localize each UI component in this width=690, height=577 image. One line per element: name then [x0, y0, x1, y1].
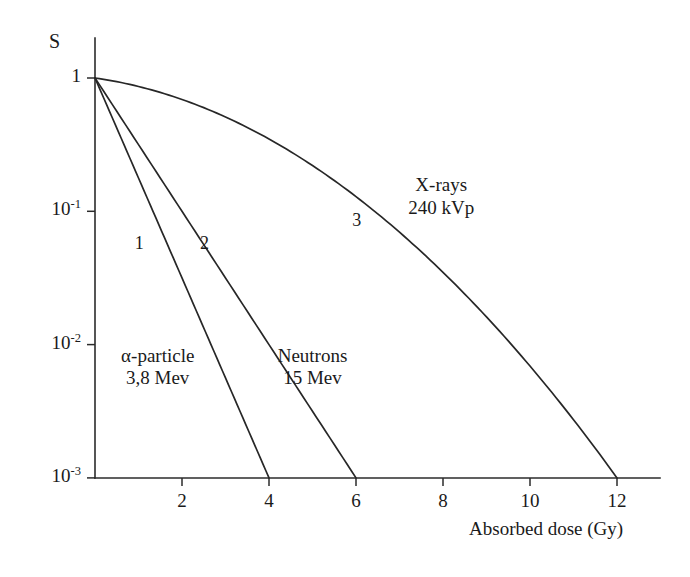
ann-neutrons-line1: Neutrons — [278, 345, 348, 367]
x-tick-label-2: 6 — [336, 490, 376, 512]
x-tick-label-4: 10 — [510, 490, 550, 512]
curves-group — [95, 78, 617, 478]
survival-curve-figure: 110-110-210-324681012123X-rays240 kVpα-p… — [0, 0, 690, 577]
num-1-label: 1 — [135, 233, 144, 254]
axes-group — [95, 38, 660, 478]
curve-1 — [95, 78, 269, 478]
num-2-label: 2 — [200, 233, 209, 254]
ann-xrays-line1: X-rays — [408, 174, 474, 196]
x-tick-label-5: 12 — [597, 490, 637, 512]
y-tick-label-1: 10-1 — [52, 198, 81, 220]
x-axis-title: Absorbed dose (Gy) — [469, 518, 623, 540]
y-tick-label-0: 1 — [72, 65, 82, 87]
ann-neutrons: Neutrons15 Mev — [278, 345, 348, 390]
y-tick-label-2: 10-2 — [52, 332, 81, 354]
ann-xrays: X-rays240 kVp — [408, 174, 474, 219]
curve-2 — [95, 78, 356, 478]
curve-3 — [95, 78, 617, 478]
x-tick-label-3: 8 — [423, 490, 463, 512]
ticks-group — [87, 78, 617, 486]
y-tick-label-3: 10-3 — [52, 465, 81, 487]
ann-alpha-line2: 3,8 Mev — [121, 367, 194, 389]
ann-xrays-line2: 240 kVp — [408, 197, 474, 219]
x-tick-label-1: 4 — [249, 490, 289, 512]
ann-alpha: α-particle3,8 Mev — [121, 345, 194, 390]
ann-alpha-line1: α-particle — [121, 345, 194, 367]
x-tick-label-0: 2 — [162, 490, 202, 512]
ann-neutrons-line2: 15 Mev — [278, 367, 348, 389]
num-3-label: 3 — [352, 210, 361, 231]
y-axis-title: S — [49, 30, 60, 54]
